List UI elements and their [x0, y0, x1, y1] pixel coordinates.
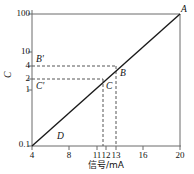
chart-container: 100 10 4 2 1 0.1 4 8 11 12 13 16 20 C 信号…: [0, 0, 194, 174]
point-label-a: A: [181, 5, 187, 15]
x-tick-label-4: 4: [24, 151, 40, 160]
y-tick-label-0-1: 0.1: [4, 140, 30, 149]
point-label-b: B: [120, 69, 126, 79]
y-tick-label-10: 10: [4, 47, 30, 56]
point-label-c: C: [106, 82, 112, 92]
x-tick-label-20: 20: [172, 151, 188, 160]
x-axis-title: 信号/mA: [66, 161, 146, 170]
y-axis-title: C: [4, 65, 14, 85]
point-label-b-prime: B': [36, 55, 44, 65]
x-tick-label-16: 16: [135, 151, 151, 160]
x-tick-label-13: 13: [108, 151, 124, 160]
x-tick-label-8: 8: [61, 151, 77, 160]
data-series-calibration-line: [32, 14, 180, 146]
y-tick-label-100: 100: [4, 9, 30, 18]
point-label-c-prime: C': [36, 82, 44, 92]
point-label-d: D: [57, 132, 64, 142]
y-tick-label-1: 1: [4, 85, 30, 94]
